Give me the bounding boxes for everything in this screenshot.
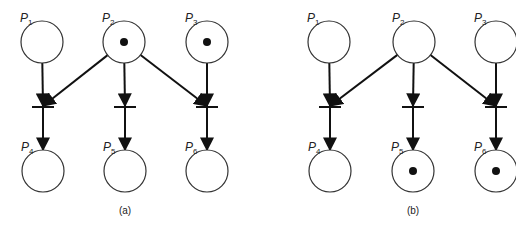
- place-label: P2: [392, 11, 405, 27]
- place-label-letter: P: [392, 11, 400, 25]
- place-label: P1: [20, 11, 33, 27]
- token-dot: [120, 38, 128, 46]
- petri-net-canvas: P1P2P3P4P5P6(a) P1P2P3P4P5P6(b): [0, 0, 516, 229]
- place-label-letter: P: [103, 140, 111, 154]
- arc-p1-to-t1: [329, 63, 330, 106]
- place-circle: [475, 21, 516, 63]
- arc-p2-to-t3: [430, 55, 496, 106]
- place-circle: [186, 150, 228, 192]
- figure-caption-b: (b): [407, 205, 419, 216]
- place-label: P6: [474, 140, 487, 156]
- petri-net-b: P1P2P3P4P5P6(b): [307, 11, 516, 216]
- place-label: P3: [474, 11, 487, 27]
- token-dot: [409, 167, 417, 175]
- place-p2: P2: [102, 11, 145, 63]
- place-circle: [104, 150, 146, 192]
- figure-caption-a: (a): [119, 205, 131, 216]
- place-label-subscript: 6: [193, 147, 198, 156]
- place-label-subscript: 5: [111, 147, 116, 156]
- place-p3: P3: [474, 11, 516, 63]
- place-p1: P1: [20, 11, 63, 63]
- arc-p2-to-t3: [141, 55, 207, 106]
- place-label: P4: [308, 140, 321, 156]
- arc-p2-to-t1: [43, 55, 108, 106]
- arc-p2-to-t1: [330, 55, 397, 106]
- token-dot: [203, 38, 211, 46]
- arc-p1-to-t1: [42, 63, 43, 106]
- place-label: P5: [103, 140, 116, 156]
- place-label-subscript: 2: [400, 18, 405, 27]
- place-label-letter: P: [307, 11, 315, 25]
- place-label-letter: P: [474, 11, 482, 25]
- place-label-subscript: 5: [399, 147, 404, 156]
- place-circle: [308, 21, 350, 63]
- token-dot: [492, 167, 500, 175]
- place-circle: [393, 21, 435, 63]
- place-label-letter: P: [185, 11, 193, 25]
- place-label-letter: P: [308, 140, 316, 154]
- place-label-subscript: 4: [316, 147, 321, 156]
- petri-net-a: P1P2P3P4P5P6(a): [20, 11, 228, 216]
- place-label: P6: [185, 140, 198, 156]
- place-label-letter: P: [185, 140, 193, 154]
- place-label: P2: [102, 11, 115, 27]
- place-label-letter: P: [21, 140, 29, 154]
- place-label: P5: [391, 140, 404, 156]
- place-label-letter: P: [102, 11, 110, 25]
- place-circle: [22, 150, 64, 192]
- place-circle: [21, 21, 63, 63]
- arc-p2-to-t2: [124, 63, 125, 106]
- place-label: P4: [21, 140, 34, 156]
- place-label-subscript: 3: [193, 18, 198, 27]
- place-label-letter: P: [391, 140, 399, 154]
- place-p3: P3: [185, 11, 228, 63]
- place-label: P1: [307, 11, 320, 27]
- place-label-letter: P: [20, 11, 28, 25]
- place-label-letter: P: [474, 140, 482, 154]
- place-p2: P2: [392, 11, 435, 63]
- place-label-subscript: 1: [28, 18, 33, 27]
- place-label-subscript: 6: [482, 147, 487, 156]
- place-label-subscript: 3: [482, 18, 487, 27]
- petri-net-figure: P1P2P3P4P5P6(a) P1P2P3P4P5P6(b): [0, 0, 516, 229]
- place-label-subscript: 2: [110, 18, 115, 27]
- place-label-subscript: 1: [315, 18, 320, 27]
- place-label: P3: [185, 11, 198, 27]
- place-p1: P1: [307, 11, 350, 63]
- place-label-subscript: 4: [29, 147, 34, 156]
- place-circle: [309, 150, 351, 192]
- arc-p2-to-t2: [413, 63, 414, 106]
